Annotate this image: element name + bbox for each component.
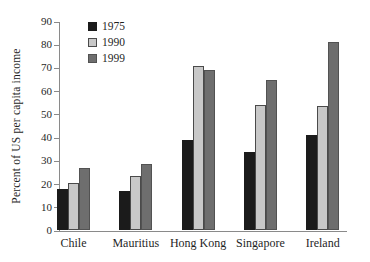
legend-swatch-1999 bbox=[88, 54, 97, 63]
x-category-label: Chile bbox=[39, 236, 109, 251]
bar-mauritius-1975 bbox=[119, 191, 130, 230]
y-tick-mark bbox=[54, 161, 59, 162]
bar-singapore-1990 bbox=[255, 105, 266, 230]
y-tick-label: 70 bbox=[24, 61, 52, 74]
bar-chart: Percent of US per capita income 01020304… bbox=[0, 0, 370, 262]
y-tick-label: 30 bbox=[24, 154, 52, 167]
y-tick-mark bbox=[54, 138, 59, 139]
y-axis-label: Percent of US per capita income bbox=[10, 48, 22, 203]
bar-singapore-1999 bbox=[266, 80, 277, 231]
x-category-label: Hong Kong bbox=[163, 236, 233, 251]
bar-hong-kong-1990 bbox=[193, 66, 204, 231]
y-tick-mark bbox=[54, 22, 59, 23]
y-tick-mark bbox=[54, 184, 59, 185]
y-tick-label: 60 bbox=[24, 85, 52, 98]
y-tick-mark bbox=[54, 231, 59, 232]
y-tick-mark bbox=[54, 45, 59, 46]
bar-chile-1999 bbox=[79, 168, 90, 231]
y-tick-mark bbox=[54, 114, 59, 115]
y-tick-label: 20 bbox=[24, 178, 52, 191]
y-tick-label: 90 bbox=[24, 15, 52, 28]
legend-label-1990: 1990 bbox=[102, 36, 125, 49]
legend-swatch-1990 bbox=[88, 38, 97, 47]
bar-mauritius-1999 bbox=[141, 164, 152, 230]
x-category-label: Ireland bbox=[288, 236, 358, 251]
x-category-label: Mauritius bbox=[101, 236, 171, 251]
y-tick-mark bbox=[54, 91, 59, 92]
y-tick-label: 10 bbox=[24, 201, 52, 214]
bar-ireland-1990 bbox=[317, 106, 328, 230]
bar-chile-1990 bbox=[68, 183, 79, 231]
bar-hong-kong-1975 bbox=[182, 140, 193, 231]
legend-label-1975: 1975 bbox=[102, 20, 125, 33]
y-tick-label: 50 bbox=[24, 108, 52, 121]
legend-label-1999: 1999 bbox=[102, 52, 125, 65]
y-tick-label: 80 bbox=[24, 38, 52, 51]
y-tick-label: 40 bbox=[24, 131, 52, 144]
bar-ireland-1999 bbox=[328, 42, 339, 230]
bar-singapore-1975 bbox=[244, 152, 255, 231]
bar-hong-kong-1999 bbox=[204, 70, 215, 230]
bar-chile-1975 bbox=[57, 189, 68, 231]
legend-swatch-1975 bbox=[88, 22, 97, 31]
bar-ireland-1975 bbox=[306, 135, 317, 230]
y-tick-mark bbox=[54, 68, 59, 69]
x-axis-line bbox=[56, 231, 347, 232]
x-category-label: Singapore bbox=[225, 236, 295, 251]
bar-mauritius-1990 bbox=[130, 176, 141, 231]
